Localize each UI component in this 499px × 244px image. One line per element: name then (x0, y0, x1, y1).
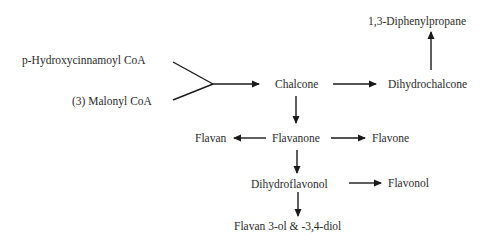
node-flavone: Flavone (372, 131, 409, 145)
fork-upper-line (173, 62, 213, 84)
fork-lower-line (173, 84, 213, 100)
node-dihydrochalcone: Dihydrochalcone (388, 77, 467, 91)
node-flavanone: Flavanone (272, 131, 320, 145)
edges-layer (0, 0, 499, 244)
node-flavan: Flavan (195, 131, 226, 145)
node-chalcone: Chalcone (275, 77, 318, 91)
node-diphenylpropane: 1,3-Diphenylpropane (368, 14, 466, 28)
node-p-hydroxycinnamoyl-coa: p-Hydroxycinnamoyl CoA (22, 53, 146, 67)
node-dihydroflavonol: Dihydroflavonol (251, 177, 328, 191)
node-flavan-diol: Flavan 3-ol & -3,4-diol (234, 219, 341, 233)
node-malonyl-coa: (3) Malonyl CoA (72, 94, 152, 108)
node-flavonol: Flavonol (388, 176, 429, 190)
